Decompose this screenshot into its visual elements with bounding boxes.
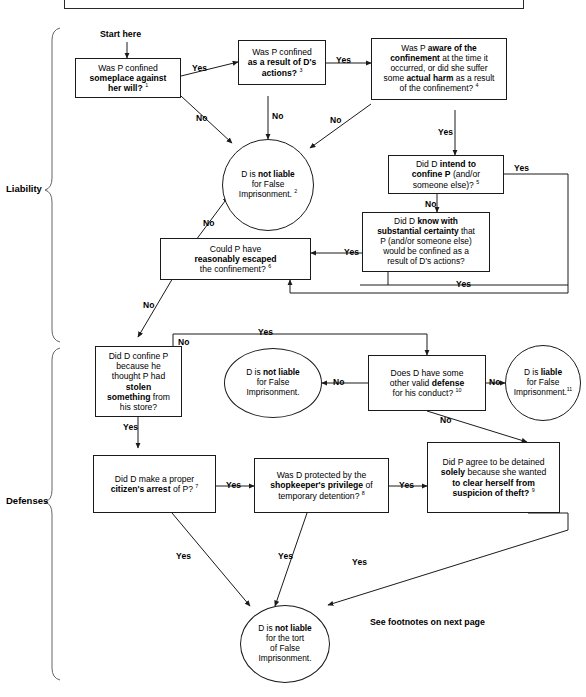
edge-label-no-stolen-bus: Yes [258,327,273,337]
edge-label-no-q3: No [272,111,284,121]
edge-label-no-q8: Yes [399,480,414,490]
node-q1-text: Was P confinedsomeplace againsther will?… [80,63,176,93]
node-q3[interactable]: Was P confinedas a result of D'sactions?… [238,40,326,85]
node-q6[interactable]: Could P havereasonably escapedthe confin… [160,238,311,280]
edge-label-no-q7: Yes [226,480,241,490]
node-substantial-certainty[interactable]: Did D know withsubstantial certainty tha… [362,212,490,272]
node-not-liable-2[interactable]: D is not liablefor FalseImprisonment. 2 [222,139,314,231]
node-q3-text: Was P confinedas a result of D'sactions?… [243,47,321,77]
node-liable-11[interactable]: D is liablefor FalseImprisonment.11 [505,345,581,421]
node-not-liable-tort-text: D is not liablefor the tortof FalseImpri… [241,624,329,664]
node-q8[interactable]: Was D protected by theshopkeeper's privi… [254,458,389,513]
node-substantial-certainty-text: Did D know withsubstantial certainty tha… [367,217,485,267]
node-not-liable-2-text: D is not liablefor FalseImprisonment. 2 [223,170,313,200]
node-q9-text: Did P agree to be detainedsolely because… [432,457,555,498]
node-q10[interactable]: Does D have someother valid defensefor h… [368,355,486,411]
edge-label-yes-stolen: Yes [123,422,138,432]
edge-label-yes-q6-in: Yes [344,247,359,257]
edge-label-yes-q10: No [333,377,345,387]
node-q10-text: Does D have someother valid defensefor h… [373,368,481,398]
edge-label-no-q10-down: No [440,415,452,425]
edge-label-yes-q9-final: Yes [352,557,367,567]
node-liable-11-text: D is liablefor FalseImprisonment.11 [506,368,580,398]
edge-label-no-q4: No [330,115,342,125]
section-label-defenses: Defenses [6,495,48,506]
flowchart-canvas: Was P confinedsomeplace againsther will?… [0,0,586,697]
edge-label-yes-substantial: Yes [456,279,471,289]
edge-label-no-q6: No [143,300,155,310]
node-q5-text: Did D intend toconfine P (and/orsomeone … [393,159,499,189]
node-not-liable-tort[interactable]: D is not liablefor the tortof FalseImpri… [240,605,330,683]
section-brace-lines [45,28,60,680]
node-q4[interactable]: Was P aware of theconfinement at the tim… [371,38,507,100]
start-here-label: Start here [100,29,141,39]
node-q5[interactable]: Did D intend toconfine P (and/orsomeone … [388,155,504,194]
title-box [64,0,524,9]
edge-label-yes-q7-final: Yes [176,551,191,561]
section-label-liability: Liability [6,183,42,194]
edge-label-yes-q4: Yes [438,127,453,137]
edge-label-yes-q6-out: No [203,218,215,228]
node-q1[interactable]: Was P confinedsomeplace againsther will?… [75,58,181,98]
footnotes-note: See footnotes on next page [370,617,485,627]
node-q6-text: Could P havereasonably escapedthe confin… [165,244,306,274]
edge-label-yes-q8-final: Yes [278,551,293,561]
node-q8-text: Was D protected by theshopkeeper's privi… [259,470,384,500]
edge-label-yes-q3: Yes [336,55,351,65]
edge-label-yes-q5: Yes [514,163,529,173]
node-q7-text: Did D make a propercitizen's arrest of P… [98,474,211,494]
edge-label-no-q1: No [196,113,208,123]
node-q4-text: Was P aware of theconfinement at the tim… [376,44,502,94]
node-q-stolen[interactable]: Did D confine Pbecause hethought P hadst… [95,346,182,417]
edge-label-yes-q1: Yes [192,63,207,73]
edge-label-no-stolen-short: No [178,337,190,347]
node-q7[interactable]: Did D make a propercitizen's arrest of P… [93,455,216,513]
edge-label-no-q10-right: No [489,377,501,387]
node-q-stolen-text: Did D confine Pbecause hethought P hadst… [100,351,177,412]
node-not-liable-mid-text: D is not liablefor FalseImprisonment. [225,368,321,398]
edge-label-no-q5: No [425,199,437,209]
node-q9[interactable]: Did P agree to be detainedsolely because… [427,442,560,513]
node-not-liable-mid[interactable]: D is not liablefor FalseImprisonment. [224,348,322,418]
connector-lines [0,0,586,697]
